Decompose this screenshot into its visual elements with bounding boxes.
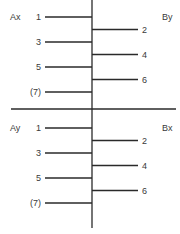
left-rung-label: (7) [30, 87, 41, 97]
left-rung-label: 3 [36, 148, 41, 158]
left-rung-label: 3 [36, 37, 41, 47]
right-rung-label: 6 [142, 186, 147, 196]
right-rung-label: 4 [142, 50, 147, 60]
right-rung-label: 6 [142, 75, 147, 85]
left-rung-label: 5 [36, 62, 41, 72]
right-axis-label: By [162, 12, 173, 22]
left-rung-label: 1 [36, 12, 41, 22]
right-rung-label: 4 [142, 161, 147, 171]
left-rung-label: 1 [36, 123, 41, 133]
left-axis-label: Ay [10, 123, 21, 133]
right-rung-label: 2 [142, 25, 147, 35]
right-rung-label: 2 [142, 136, 147, 146]
left-axis-label: Ax [10, 12, 21, 22]
left-rung-label: 5 [36, 173, 41, 183]
ladder-diagram: Ax By 135(7)246 Ay Bx 135(7)246 [0, 0, 180, 234]
right-axis-label: Bx [162, 123, 173, 133]
left-rung-label: (7) [30, 198, 41, 208]
